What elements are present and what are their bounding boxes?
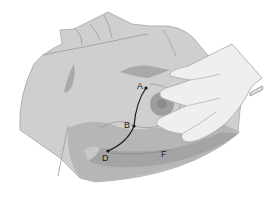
anatomy-diagram: A B D F [0,0,275,199]
nipple [157,99,167,109]
label-d: D [102,153,109,163]
point-b-marker [132,124,135,127]
label-f: F [161,149,167,159]
sleeve-cuff [250,86,263,96]
point-a-marker [144,86,147,89]
label-b: B [124,120,130,130]
label-a: A [137,81,143,91]
